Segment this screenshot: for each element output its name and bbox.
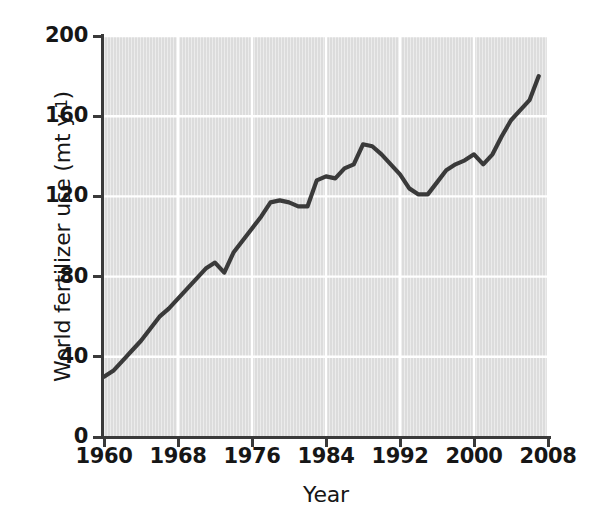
- x-tick-label: 2008: [508, 446, 588, 467]
- chart-figure: 04080120160200 1960196819761984199220002…: [0, 0, 589, 526]
- x-axis-title: Year: [104, 482, 548, 507]
- x-tick-label: 1976: [212, 446, 292, 467]
- x-tick-label: 1992: [360, 446, 440, 467]
- x-tick-label: 1960: [64, 446, 144, 467]
- y-tick-mark: [93, 195, 104, 198]
- x-tick-label: 1984: [286, 446, 366, 467]
- y-axis-title-main: World fertilizer use (mt y: [50, 114, 75, 382]
- y-tick-mark: [93, 275, 104, 278]
- vertical-gridlines: [178, 36, 548, 437]
- y-axis-title-tail: ): [50, 91, 75, 99]
- y-tick-mark: [93, 355, 104, 358]
- y-tick-mark: [93, 115, 104, 118]
- x-tick-label: 2000: [434, 446, 514, 467]
- y-tick-mark: [93, 35, 104, 38]
- plot-canvas: [104, 36, 548, 437]
- x-tick-label: 1968: [138, 446, 218, 467]
- plot-area: [104, 36, 548, 437]
- y-axis-spine: [101, 34, 104, 439]
- y-axis-title: World fertilizer use (mt y-1): [42, 36, 82, 437]
